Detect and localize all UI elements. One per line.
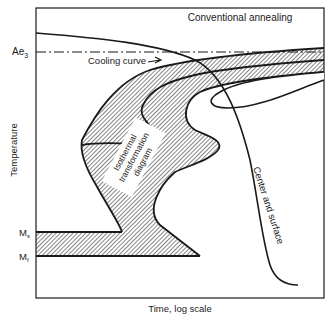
cooling-curve-arrow-icon — [148, 57, 161, 63]
annealing-diagram: Conventional annealing Cooling curve Ae3… — [0, 0, 328, 323]
center-surface-label: Center and surface — [251, 165, 286, 245]
diagram-canvas: Conventional annealing Cooling curve Ae3… — [0, 0, 328, 323]
mf-label: Mf — [19, 251, 29, 263]
x-axis-label: Time, log scale — [148, 303, 212, 314]
y-axis-label: Temperature — [8, 123, 19, 176]
ms-label: Ms — [19, 227, 30, 239]
ae3-label: Ae3 — [12, 46, 28, 59]
cooling-curve-label: Cooling curve — [88, 55, 146, 66]
diagram-title: Conventional annealing — [188, 12, 293, 23]
